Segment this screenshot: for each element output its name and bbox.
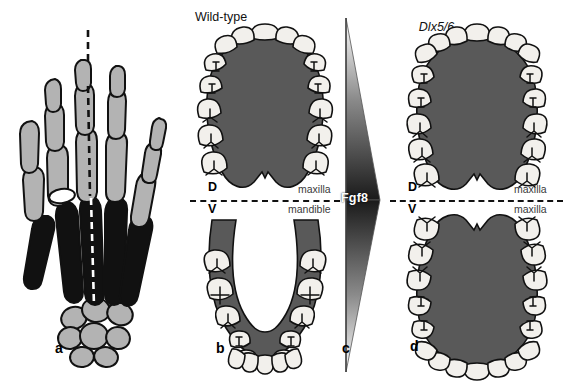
ring-phalanges xyxy=(106,66,127,202)
knockout-lower-maxilla-arch: .tis4{fill:#595959;stroke:#111;stroke-wi… xyxy=(392,214,563,382)
fgf8-signal-label: Fgf8 xyxy=(341,191,368,205)
panel-label-a: a xyxy=(55,341,63,357)
knockout-axis-label-dorsal: D xyxy=(408,180,417,194)
panel-c-fgf8-signal: Fgf8 c xyxy=(330,0,392,386)
panel-label-d: d xyxy=(410,339,419,355)
wildtype-maxilla-arch: .tis{fill:#595959;stroke:#111;stroke-wid… xyxy=(190,22,340,202)
panel-label-b: b xyxy=(216,341,225,357)
little-phalanges xyxy=(131,118,166,227)
fgf8-lower-triangle xyxy=(346,200,380,372)
wildtype-mandible-arch: .tis2{fill:#595959;stroke:#111;stroke-wi… xyxy=(190,218,340,378)
figure-canvas: .bl{fill:#b3b3b3;stroke:#111;stroke-widt… xyxy=(0,0,563,386)
index-phalanges xyxy=(45,79,68,206)
fgf8-upper-triangle xyxy=(346,18,380,200)
carpal-bones xyxy=(56,296,136,369)
panel-a-hand: .bl{fill:#b3b3b3;stroke:#111;stroke-widt… xyxy=(0,0,190,386)
panel-label-c: c xyxy=(342,341,350,357)
knockout-upper-maxilla-arch: .tis3{fill:#595959;stroke:#111;stroke-wi… xyxy=(392,22,563,202)
middle-phalanges xyxy=(75,60,97,202)
wildtype-lower-jaw-label: mandible xyxy=(288,204,331,216)
wildtype-axis-label-ventral: V xyxy=(208,202,216,216)
hand-skeleton-svg: .bl{fill:#b3b3b3;stroke:#111;stroke-widt… xyxy=(0,0,190,386)
panel-b-wildtype: Wild-type .tis{fill:#595959;stroke:#111;… xyxy=(190,0,340,386)
wildtype-axis-label-dorsal: D xyxy=(208,180,217,194)
panel-d-knockout: Dlx5/6 knockout .tis3{fill:#595959;strok… xyxy=(392,0,563,386)
wildtype-upper-jaw-label: maxilla xyxy=(298,184,331,196)
thumb-phalanges xyxy=(20,121,44,221)
knockout-upper-jaw-label: maxilla xyxy=(514,184,547,196)
